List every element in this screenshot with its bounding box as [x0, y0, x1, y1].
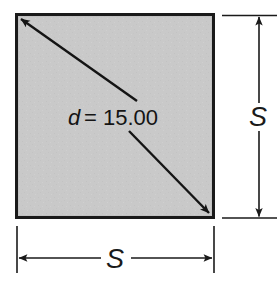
diagonal-value-label: 15.00 [103, 105, 158, 130]
geometry-diagram-svg: d = 15.00 S S [0, 0, 279, 289]
dimension-width-bottom: S [17, 226, 214, 274]
figure-container: d = 15.00 S S [0, 0, 279, 289]
dimension-label-height: S [249, 102, 267, 132]
diagonal-variable-label: d [68, 105, 81, 130]
dimension-label-width: S [106, 244, 124, 274]
diagonal-equals-sign: = [84, 105, 97, 130]
dimension-height-right: S [222, 16, 277, 219]
